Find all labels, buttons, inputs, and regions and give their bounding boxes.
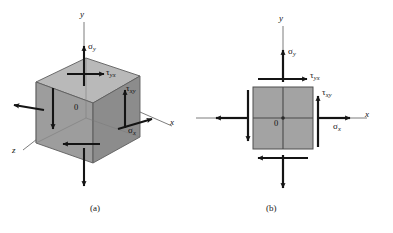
panel-a-z-axis-label: z: [12, 146, 16, 155]
panel-a-x-axis-label: x: [170, 118, 174, 127]
panel-b-tau-yx-label: τyx: [310, 71, 319, 80]
panel-b-y-axis-label: y: [279, 14, 283, 23]
panel-a-caption: (a): [90, 203, 100, 213]
panel-a-tau-xy-label: τxy: [126, 84, 135, 93]
panel-b-tau-xy-subscript: xy: [326, 91, 332, 98]
panel-a-x-axis-line: [140, 112, 172, 126]
panel-b-sigma-y-subscript: y: [293, 50, 296, 57]
panel-b-tau-xy-label: τxy: [322, 88, 331, 97]
figure-vector-canvas: [0, 0, 393, 233]
stress-element-figure: y x z 0 σy σx τyx τxy y x 0 σy σx τyx τx…: [0, 0, 393, 233]
panel-b-caption: (b): [266, 203, 277, 213]
panel-b-sigma-x-subscript: x: [338, 125, 341, 132]
panel-a-tau-xy-subscript: xy: [130, 87, 136, 94]
square-center-point: [281, 116, 285, 120]
panel-b-origin-label: 0: [274, 119, 278, 128]
panel-a-sigma-x-label: σx: [128, 126, 136, 135]
panel-a-tau-yx-subscript: yx: [110, 71, 116, 78]
panel-a-sigma-y-label: σy: [88, 42, 96, 51]
panel-a-tau-yx-label: τyx: [106, 68, 115, 77]
panel-a-origin-label: 0: [74, 103, 78, 112]
panel-b-group: [196, 26, 367, 188]
panel-a-sigma-y-subscript: y: [93, 45, 96, 52]
panel-b-x-axis-label: x: [365, 110, 369, 119]
panel-b-sigma-x-label: σx: [333, 122, 341, 131]
panel-b-sigma-y-label: σy: [288, 47, 296, 56]
panel-a-y-axis-label: y: [80, 10, 84, 19]
panel-b-tau-yx-subscript: yx: [314, 74, 320, 81]
panel-a-sigma-x-subscript: x: [133, 129, 136, 136]
